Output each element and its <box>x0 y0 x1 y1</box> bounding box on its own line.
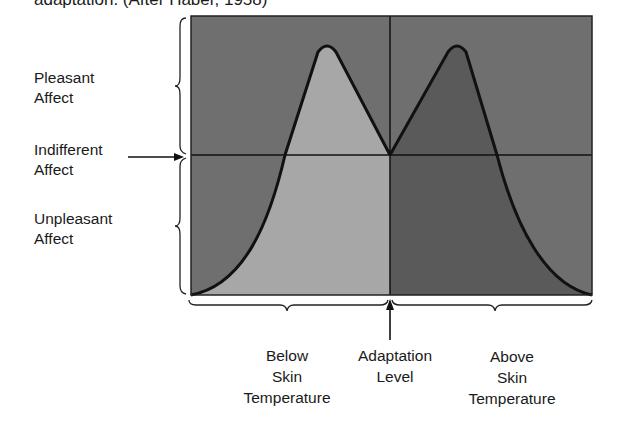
label-line: Affect <box>34 160 103 180</box>
label-line: Skin <box>222 366 352 387</box>
above-brace-icon <box>392 300 592 311</box>
label-line: Skin <box>447 367 577 388</box>
unpleasant-affect-label: Unpleasant Affect <box>34 209 112 249</box>
adaptation-level-label: Adaptation Level <box>340 345 450 387</box>
label-line: Pleasant <box>34 68 94 88</box>
pleasant-affect-label: Pleasant Affect <box>34 68 94 108</box>
label-line: Temperature <box>222 387 352 408</box>
label-line: Affect <box>34 229 112 249</box>
below-brace-icon <box>189 300 388 311</box>
unpleasant-brace-icon <box>175 158 186 294</box>
label-line: Indifferent <box>34 140 103 160</box>
above-skin-temperature-label: Above Skin Temperature <box>447 346 577 409</box>
label-line: Unpleasant <box>34 209 112 229</box>
label-line: Below <box>222 345 352 366</box>
label-line: Adaptation <box>340 345 450 366</box>
label-line: Affect <box>34 88 94 108</box>
label-line: Level <box>340 366 450 387</box>
below-skin-temperature-label: Below Skin Temperature <box>222 345 352 408</box>
label-line: Above <box>447 346 577 367</box>
label-line: Temperature <box>447 388 577 409</box>
indifferent-affect-label: Indifferent Affect <box>34 140 103 180</box>
pleasant-brace-icon <box>175 18 186 154</box>
